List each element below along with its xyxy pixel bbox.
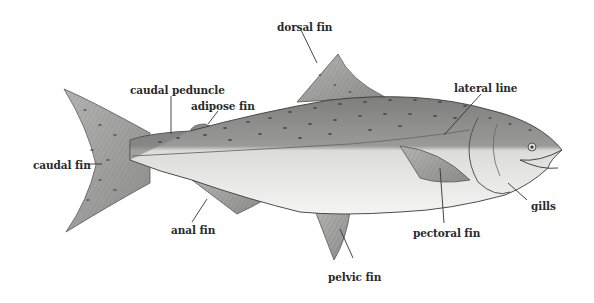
label-pelvic-fin: pelvic fin [328,271,381,283]
fish-body-shape [130,97,562,214]
label-dorsal-fin: dorsal fin [277,21,332,33]
label-adipose-fin: adipose fin [191,100,255,112]
dorsal-fin-shape [297,54,385,102]
fish-illustration [0,0,594,303]
label-gills: gills [531,200,556,212]
label-lateral-line: lateral line [454,82,517,94]
label-caudal-fin: caudal fin [33,159,91,171]
eye-shape [528,143,536,151]
pelvic-fin-shape [316,208,350,260]
fish-diagram: dorsal fin caudal peduncle adipose fin l… [0,0,594,303]
label-anal-fin: anal fin [171,224,215,236]
label-caudal-peduncle: caudal peduncle [130,84,225,96]
label-pectoral-fin: pectoral fin [413,227,480,239]
